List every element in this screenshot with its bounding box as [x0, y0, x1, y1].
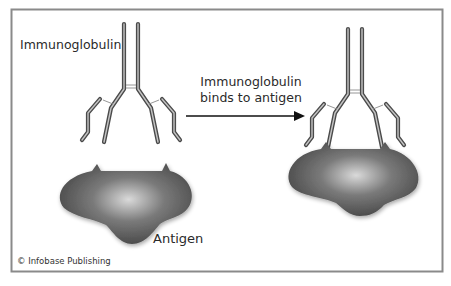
antigen-label: Antigen	[153, 231, 203, 246]
process-label-line1: Immunoglobulin	[196, 74, 306, 90]
process-label-line2: binds to antigen	[196, 90, 306, 106]
antigen-bound	[289, 142, 419, 216]
immunoglobulin-bound	[306, 29, 404, 147]
process-label: Immunoglobulin binds to antigen	[196, 74, 306, 106]
process-arrow	[186, 111, 305, 121]
arrowhead-icon	[294, 111, 305, 121]
copyright-credit: © Infobase Publishing	[17, 256, 111, 266]
immunoglobulin-label: Immunoglobulin	[20, 37, 121, 52]
